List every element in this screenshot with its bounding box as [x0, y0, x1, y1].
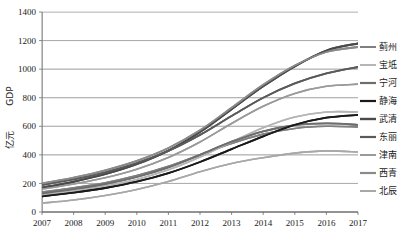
x-tick-label: 2014 — [254, 218, 273, 228]
mask-right — [358, 0, 408, 249]
y-tick-label: 0 — [32, 207, 37, 217]
legend-label-北辰: 北辰 — [379, 186, 397, 196]
x-tick-label: 2016 — [317, 218, 336, 228]
x-tick-label: 2017 — [349, 218, 368, 228]
legend-label-蓟州: 蓟州 — [379, 41, 397, 52]
legend-label-静海: 静海 — [379, 95, 397, 106]
y-axis-title-gdp: GDP — [5, 86, 15, 106]
x-tick-label: 2011 — [160, 218, 178, 228]
x-tick-label: 2007 — [33, 218, 52, 228]
gdp-line-chart: 0200400600800100012001400200720082009201… — [0, 0, 408, 249]
legend-label-武清: 武清 — [379, 113, 397, 124]
y-axis-title-unit: 亿元 — [4, 131, 15, 149]
y-tick-label: 400 — [23, 150, 37, 160]
x-tick-label: 2012 — [191, 218, 209, 228]
x-tick-label: 2010 — [128, 218, 147, 228]
y-tick-label: 1400 — [18, 7, 37, 17]
chart-svg: 0200400600800100012001400200720082009201… — [0, 0, 408, 249]
mask-top — [0, 0, 408, 12]
y-tick-label: 200 — [23, 179, 37, 189]
x-tick-label: 2015 — [286, 218, 305, 228]
legend-label-宁河: 宁河 — [379, 77, 397, 88]
legend-label-东丽: 东丽 — [379, 131, 397, 142]
legend-label-宝坻: 宝坻 — [379, 59, 397, 70]
x-tick-label: 2008 — [65, 218, 84, 228]
x-tick-label: 2013 — [223, 218, 242, 228]
legend-label-津南: 津南 — [379, 149, 397, 160]
legend-label-西青: 西青 — [379, 167, 397, 178]
plot-area-background — [42, 12, 358, 212]
legend: 蓟州宝坻宁河静海武清东丽津南西青北辰 — [360, 41, 397, 196]
y-tick-label: 1200 — [18, 36, 37, 46]
y-tick-label: 800 — [23, 93, 37, 103]
y-tick-label: 600 — [23, 121, 37, 131]
y-tick-label: 1000 — [18, 64, 37, 74]
x-tick-label: 2009 — [96, 218, 115, 228]
